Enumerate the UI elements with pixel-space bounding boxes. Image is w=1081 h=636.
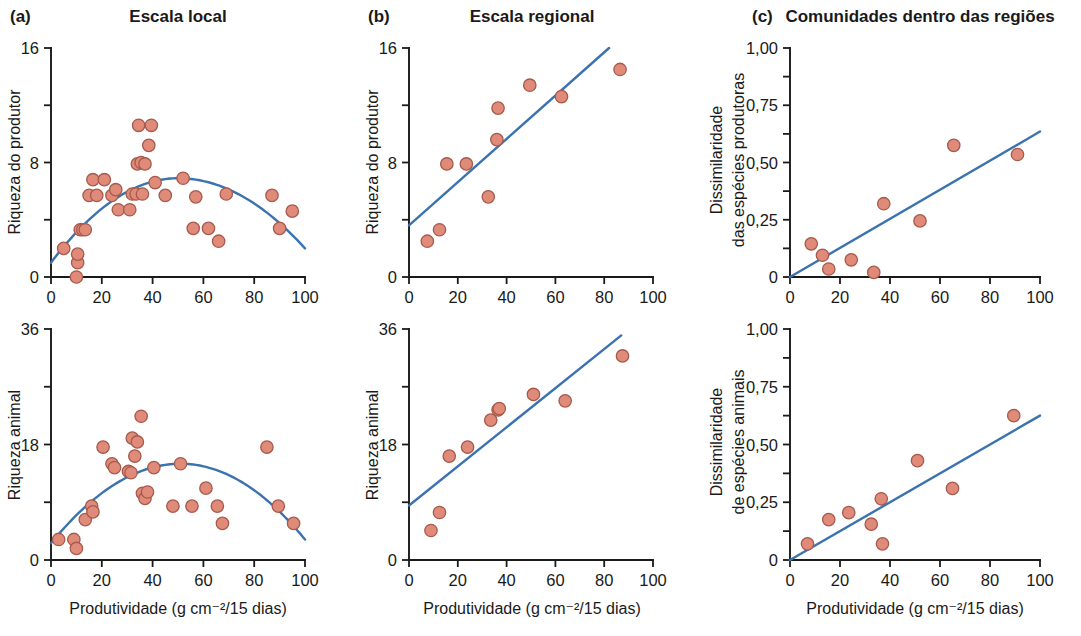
data-point: [202, 222, 214, 234]
ylabel-b-top: Riqueza do produtor: [364, 89, 381, 235]
x-tick-label: 100: [639, 571, 667, 589]
xlabel-b-bottom: Produtividade (g cm⁻²/15 dias): [423, 600, 640, 617]
data-point: [174, 458, 186, 470]
data-point: [845, 254, 857, 266]
x-tick-label: 0: [785, 571, 794, 589]
panel-c-top: 02040608010000,250,500,751,00: [746, 39, 1054, 306]
axis-spine: [790, 48, 1040, 277]
panel-letter-3: (c): [752, 7, 773, 26]
y-tick-label: 0: [769, 268, 778, 286]
x-tick-label: 20: [449, 571, 467, 589]
data-point: [823, 263, 835, 275]
ylabel-c-top-line1: Dissimilaridade: [708, 106, 725, 215]
data-point: [211, 500, 223, 512]
panel-a-bottom: 02040608010001836: [21, 320, 319, 589]
data-point: [441, 158, 453, 170]
data-point: [461, 441, 473, 453]
multi-panel-scatter-figure: 0204060801000816020406080100081602040608…: [0, 0, 1081, 636]
data-point: [911, 454, 923, 466]
x-tick-label: 20: [449, 288, 467, 306]
data-point: [139, 158, 151, 170]
data-point: [91, 189, 103, 201]
x-axis-titles: Produtividade (g cm⁻²/15 dias)Produtivid…: [69, 600, 1023, 617]
data-point: [482, 191, 494, 203]
y-tick-label: 8: [388, 154, 397, 172]
panel-title-3: Comunidades dentro das regiões: [785, 7, 1054, 26]
data-point: [875, 493, 887, 505]
data-points: [425, 350, 629, 537]
y-tick-label: 0: [388, 551, 397, 569]
data-point: [187, 222, 199, 234]
data-point: [421, 235, 433, 247]
x-tick-label: 60: [546, 571, 564, 589]
x-tick-label: 100: [1026, 571, 1054, 589]
data-point: [136, 188, 148, 200]
data-point: [914, 215, 926, 227]
data-point: [212, 235, 224, 247]
panel-title-2: Escala regional: [470, 7, 595, 26]
x-tick-label: 40: [143, 288, 161, 306]
data-point: [946, 482, 958, 494]
y-tick-label: 8: [30, 154, 39, 172]
y-tick-label: 36: [379, 320, 397, 338]
data-point: [616, 350, 628, 362]
data-point: [878, 198, 890, 210]
x-tick-label: 0: [404, 571, 413, 589]
y-tick-label: 0,50: [746, 154, 778, 172]
y-tick-label: 36: [21, 320, 39, 338]
ylabel-b-bottom: Riqueza animal: [364, 390, 381, 500]
y-tick-label: 16: [379, 39, 397, 57]
data-point: [443, 450, 455, 462]
y-tick-label: 0: [769, 551, 778, 569]
data-point: [492, 102, 504, 114]
data-point: [614, 63, 626, 75]
data-point: [97, 441, 109, 453]
data-point: [816, 249, 828, 261]
panel-b-bottom: 02040608010001836: [379, 320, 667, 589]
x-tick-label: 20: [93, 571, 111, 589]
x-tick-label: 60: [194, 288, 212, 306]
axis-spine: [409, 329, 653, 560]
data-point: [124, 204, 136, 216]
data-point: [149, 176, 161, 188]
data-point: [425, 524, 437, 536]
panel-c-bottom: 02040608010000,250,500,751,00: [746, 320, 1054, 589]
data-point: [70, 542, 82, 554]
data-points: [801, 409, 1020, 550]
x-tick-label: 40: [143, 571, 161, 589]
x-tick-label: 0: [46, 571, 55, 589]
fit-line: [790, 416, 1040, 560]
panel-title-1: Escala local: [129, 7, 226, 26]
y-tick-label: 0,50: [746, 436, 778, 454]
data-point: [801, 538, 813, 550]
data-point: [129, 450, 141, 462]
panel-letter-2: (b): [368, 7, 390, 26]
x-tick-label: 60: [546, 288, 564, 306]
x-tick-label: 80: [595, 288, 613, 306]
fit-line: [409, 48, 609, 225]
x-tick-label: 100: [1026, 288, 1054, 306]
x-tick-label: 100: [291, 288, 319, 306]
data-point: [843, 506, 855, 518]
x-tick-label: 0: [404, 288, 413, 306]
x-tick-label: 40: [881, 288, 899, 306]
data-point: [433, 506, 445, 518]
data-point: [186, 500, 198, 512]
data-point: [876, 538, 888, 550]
y-tick-label: 0: [30, 551, 39, 569]
data-point: [87, 173, 99, 185]
y-tick-label: 0,25: [746, 211, 778, 229]
x-tick-label: 40: [881, 571, 899, 589]
data-point: [200, 482, 212, 494]
ylabel-a-top: Riqueza do produtor: [6, 89, 23, 235]
x-tick-label: 20: [831, 571, 849, 589]
data-point: [216, 517, 228, 529]
data-point: [261, 441, 273, 453]
x-tick-label: 80: [595, 571, 613, 589]
data-point: [132, 119, 144, 131]
data-point: [159, 189, 171, 201]
data-points: [58, 119, 299, 283]
data-point: [286, 205, 298, 217]
data-point: [868, 266, 880, 278]
x-tick-label: 80: [981, 571, 999, 589]
